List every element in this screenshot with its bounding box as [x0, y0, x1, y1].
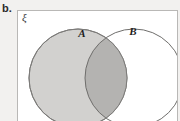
- universal-set-symbol: ξ: [22, 11, 27, 23]
- venn-diagram: A B: [18, 11, 178, 121]
- figure-panel: b. A B ξ: [0, 0, 180, 121]
- universal-set-rectangle: A B ξ: [17, 10, 178, 121]
- set-label-b: B: [128, 25, 136, 37]
- part-label: b.: [2, 2, 12, 14]
- set-label-a: A: [77, 27, 85, 39]
